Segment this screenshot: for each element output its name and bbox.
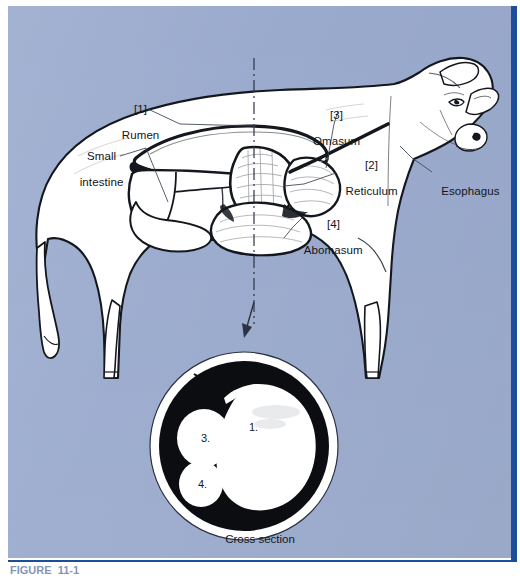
cross-section-marker-3: 3. <box>201 432 210 444</box>
label-reticulum-name: Reticulum <box>346 185 398 197</box>
section-plane-arrowhead <box>242 323 252 338</box>
label-rumen-index: [1] <box>134 103 147 115</box>
cross-section-group <box>150 352 338 540</box>
figure-caption-strip: FIGURE 11-1 <box>0 562 520 580</box>
label-small-intestine: Small intestine <box>60 137 130 202</box>
label-esophagus: Esophagus <box>428 172 508 211</box>
label-reticulum: [2] Reticulum <box>329 146 401 211</box>
cross-section-marker-3-label: 3. <box>201 432 210 444</box>
label-esophagus-name: Esophagus <box>441 185 499 197</box>
label-abomasum-index: [4] <box>327 218 340 230</box>
cross-section-marker-4: 4. <box>198 478 207 490</box>
cross-section-marker-1-label: 1. <box>249 421 258 433</box>
cross-section-caption: Cross section <box>8 533 512 545</box>
cow-anatomy-illustration <box>8 6 512 558</box>
label-abomasum: [4] Abomasum <box>288 205 366 270</box>
label-small-intestine-line2: intestine <box>80 176 124 188</box>
label-small-intestine-line1: Small <box>87 150 116 162</box>
label-omasum-index: [3] <box>330 109 343 121</box>
label-abomasum-name: Abomasum <box>304 244 363 256</box>
cross-section-marker-1: 1. <box>249 421 258 433</box>
label-reticulum-index: [2] <box>365 159 378 171</box>
cross-section-marker-4-label: 4. <box>198 478 207 490</box>
figure-caption-text: FIGURE 11-1 <box>10 564 91 576</box>
figure-root: [1] Rumen Small intestine [3] Omasum [2]… <box>0 0 520 580</box>
cow-muzzle <box>455 124 487 151</box>
cow-front-leg-far <box>365 302 381 378</box>
